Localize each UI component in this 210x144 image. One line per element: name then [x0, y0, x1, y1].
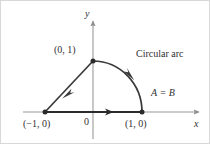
segment-slant — [45, 61, 93, 112]
origin-label: 0 — [84, 117, 89, 127]
circular-arc — [93, 61, 142, 112]
circular-arc-label: Circular arc — [136, 49, 183, 59]
point-label-left: (−1, 0) — [23, 119, 50, 129]
point-label-right: (1, 0) — [125, 119, 147, 129]
segment-slant-line — [45, 61, 93, 112]
point-label-top: (0, 1) — [54, 45, 76, 55]
a-equals-b-label: A = B — [151, 88, 175, 98]
circular-arc-path — [93, 61, 142, 112]
math-figure-circular-arc: (0, 1) (−1, 0) (1, 0) 0 x y Circular arc… — [0, 0, 210, 144]
x-axis-label: x — [194, 119, 198, 129]
y-axis-label: y — [85, 9, 89, 19]
point-marker-left — [43, 110, 48, 115]
point-marker-right — [140, 110, 145, 115]
point-marker-top — [91, 59, 96, 64]
segment-slant-direction-arrow — [62, 89, 74, 99]
